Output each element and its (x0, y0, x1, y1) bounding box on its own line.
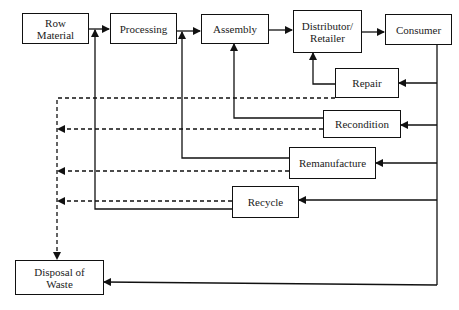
node-label: Row Material (37, 17, 74, 41)
node-disposal-of-waste: Disposal of Waste (15, 260, 104, 295)
edge-recycle-to-processing (95, 30, 232, 209)
node-label: Assembly (213, 23, 257, 35)
node-label: Repair (352, 77, 381, 89)
edge-consumer-to-disposal (104, 282, 437, 285)
node-label: Consumer (396, 24, 441, 36)
node-consumer: Consumer (385, 14, 452, 45)
node-label: Processing (120, 23, 168, 35)
node-repair: Repair (335, 68, 399, 98)
node-label: Disposal of Waste (34, 266, 84, 290)
node-remanufacture: Remanufacture (289, 147, 376, 179)
edge-recondition-to-assembly (234, 44, 323, 118)
node-label: Recycle (248, 196, 283, 208)
node-row-material: Row Material (22, 13, 89, 44)
node-label: Recondition (335, 118, 389, 130)
edge-repair-to-distributor (313, 53, 335, 84)
node-recycle: Recycle (232, 186, 299, 218)
node-recondition: Recondition (323, 110, 401, 138)
node-distributor-retailer: Distributor/ Retailer (293, 10, 362, 53)
supply-chain-diagram: Row Material Processing Assembly Distrib… (0, 0, 459, 310)
node-label: Remanufacture (299, 157, 366, 169)
node-label: Distributor/ Retailer (302, 20, 353, 44)
node-processing: Processing (110, 13, 177, 44)
node-assembly: Assembly (201, 14, 269, 44)
edge-remanufacture-to-processing (182, 32, 289, 158)
